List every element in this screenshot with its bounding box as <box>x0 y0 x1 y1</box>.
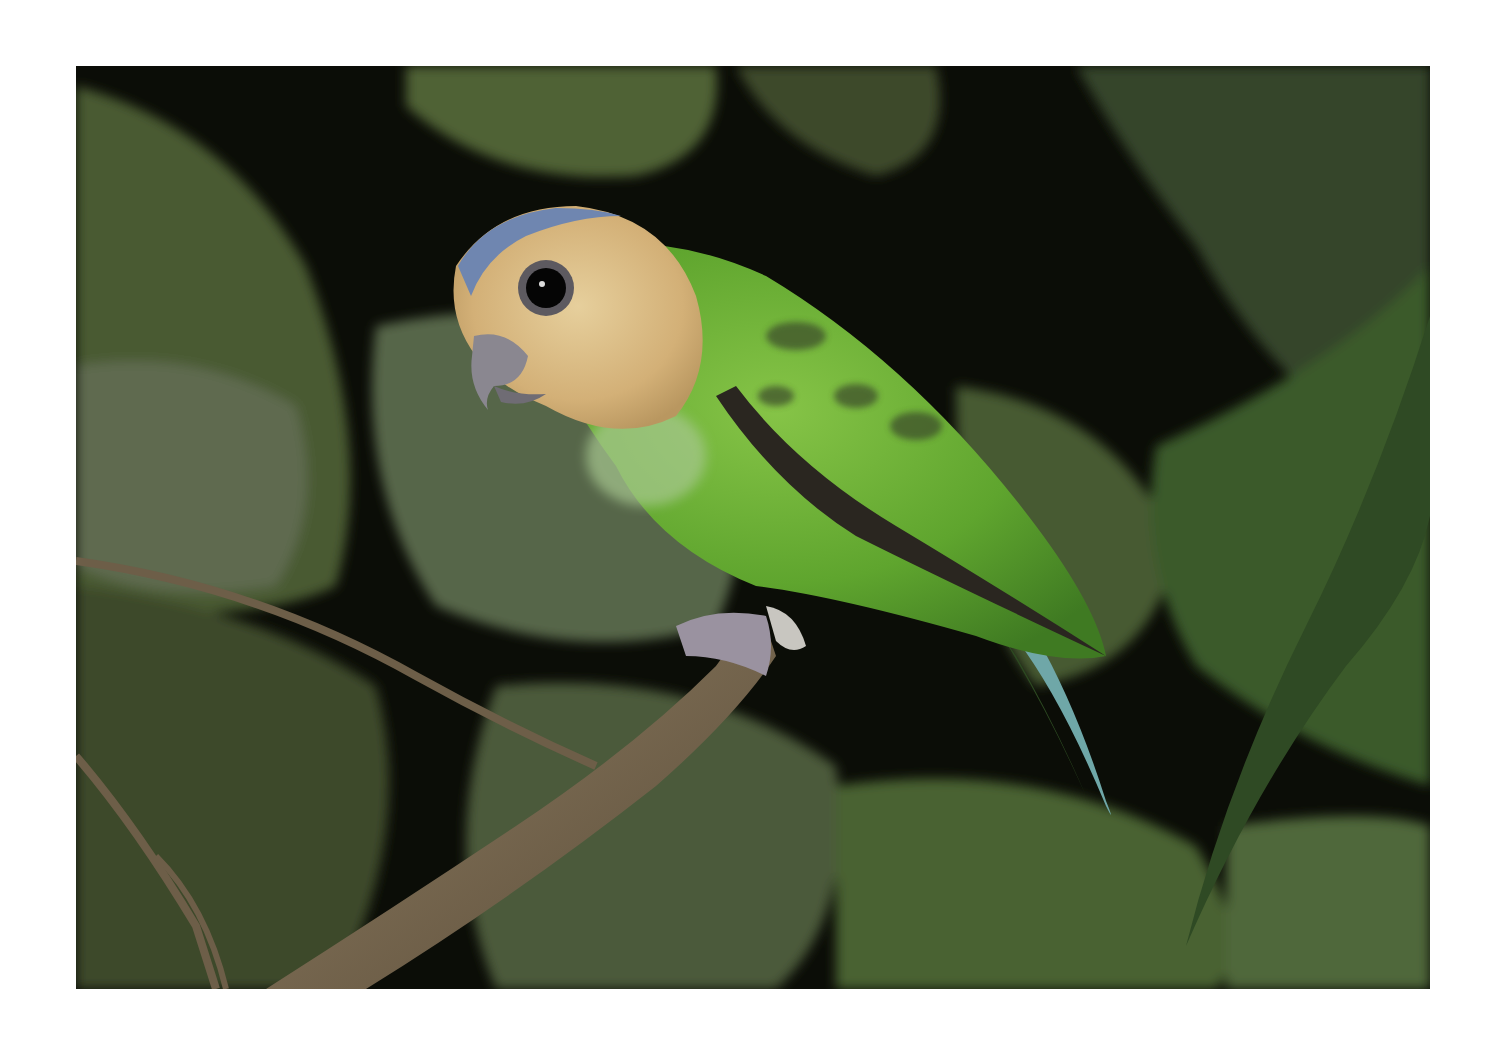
photo-scene <box>76 66 1430 989</box>
parrot-eye <box>526 268 566 308</box>
parrot-photo <box>76 66 1430 989</box>
